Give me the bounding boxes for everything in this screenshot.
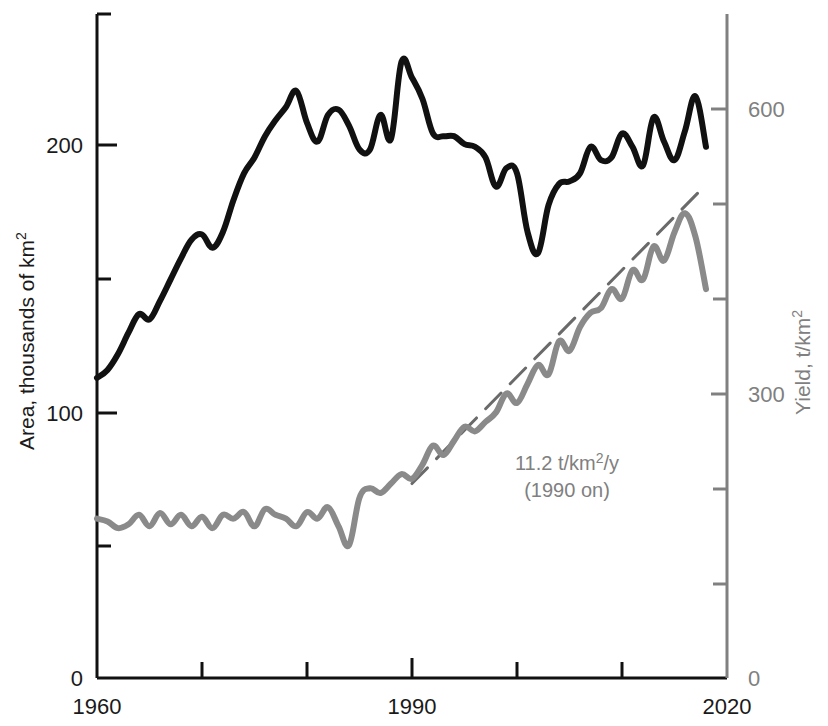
right-tick-label-300: 300 <box>748 382 785 407</box>
trend-label-superscript: 2 <box>596 450 604 466</box>
right-tick-label-600: 600 <box>748 97 785 122</box>
right-axis-title-text: Yield, t/km <box>791 318 814 415</box>
x-tick-label-1960: 1960 <box>73 694 122 719</box>
chart-svg: 200 100 0 1960 1990 2020 600 300 <box>0 0 828 726</box>
x-tick-label-2020: 2020 <box>703 694 752 719</box>
trend-annotation: 11.2 t/km2/y (1990 on) <box>515 450 619 501</box>
right-axis: 600 300 0 <box>711 14 785 691</box>
x-tick-label-1990: 1990 <box>388 694 437 719</box>
right-tick-label-0: 0 <box>748 666 760 691</box>
left-axis-title: Area, thousands of km2 <box>13 232 38 450</box>
left-axis-title-superscript: 2 <box>13 232 29 240</box>
right-axis-title-superscript: 2 <box>789 310 805 318</box>
svg-text:Yield, t/km2: Yield, t/km2 <box>789 310 814 415</box>
bottom-axis: 1960 1990 2020 <box>73 658 752 719</box>
chart-figure: 200 100 0 1960 1990 2020 600 300 <box>0 0 828 726</box>
trend-label-period: (1990 on) <box>524 479 610 501</box>
svg-text:Area, thousands of km2: Area, thousands of km2 <box>13 232 38 450</box>
right-axis-title: Yield, t/km2 <box>789 310 814 415</box>
area-series-line <box>97 59 706 378</box>
left-axis: 200 100 0 <box>46 14 117 691</box>
svg-text:11.2 t/km2/y: 11.2 t/km2/y <box>515 450 619 474</box>
left-tick-label-0: 0 <box>71 666 83 691</box>
left-axis-title-text: Area, thousands of km <box>15 240 38 450</box>
left-tick-label-100: 100 <box>46 401 83 426</box>
trend-label-prefix: 11.2 t/km <box>515 452 596 474</box>
trend-label-suffix: /y <box>604 452 620 474</box>
yield-series-line <box>97 213 706 546</box>
left-tick-label-200: 200 <box>46 133 83 158</box>
